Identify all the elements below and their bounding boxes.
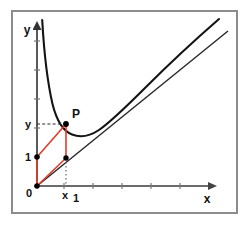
origin-label: 0 [26,187,32,199]
function-graph-svg: y x 0 y 1 x 1 P [0,0,249,226]
x-one-label: 1 [73,192,79,204]
point-diagonal-marker [63,155,68,160]
point-p-label: P [72,107,80,121]
x-axis-label: x [204,192,211,206]
point-p-marker [63,121,69,127]
y-axis-label: y [24,23,31,37]
origin-marker [34,183,39,188]
x-value-label: x [62,189,69,201]
y-value-label: y [25,118,32,130]
y-one-label: 1 [25,151,31,163]
hyperbola-curve [42,19,219,136]
point-one-marker [34,154,39,159]
figure-root: y x 0 y 1 x 1 P [0,0,249,226]
parallelogram-edge-one-to-p [37,124,66,157]
parallelogram-edge-diag-to-origin [37,158,66,186]
parallelogram-group [37,124,66,186]
